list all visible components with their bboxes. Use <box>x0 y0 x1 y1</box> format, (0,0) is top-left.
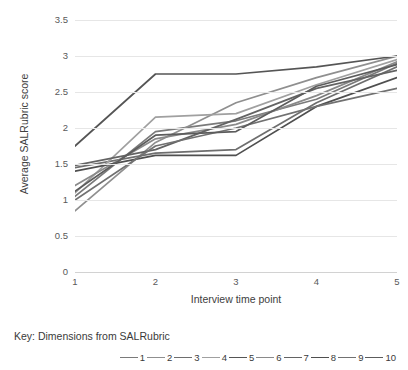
x-axis-tick-label: 3 <box>233 276 238 287</box>
legend-label-6: 6 <box>276 352 281 363</box>
legend-items: 12345678910 <box>14 347 398 367</box>
legend-swatch-8 <box>311 357 329 358</box>
legend-title: Key: Dimensions from SALRubric <box>14 330 170 342</box>
gridline <box>75 92 397 93</box>
series-line-1 <box>75 63 397 196</box>
legend-item-6[interactable]: 6 <box>256 352 281 363</box>
legend-swatch-1 <box>120 357 138 358</box>
y-axis-tick-label: 1.5 <box>8 158 68 169</box>
legend-swatch-4 <box>202 357 220 358</box>
legend-label-5: 5 <box>249 352 254 363</box>
legend-item-5[interactable]: 5 <box>229 352 254 363</box>
y-axis-tick-label: 3 <box>8 50 68 61</box>
legend-swatch-10 <box>365 357 383 358</box>
legend-item-7[interactable]: 7 <box>284 352 309 363</box>
y-axis-tick-labels: 00.511.522.533.5 <box>0 20 68 272</box>
legend-swatch-2 <box>147 357 165 358</box>
x-axis-tick-label: 2 <box>153 276 158 287</box>
gridline <box>75 56 397 57</box>
legend-label-8: 8 <box>331 352 336 363</box>
line-chart: 00.511.522.533.5 Average SALRubric score… <box>0 0 408 330</box>
legend-label-1: 1 <box>140 352 145 363</box>
legend-label-10: 10 <box>385 352 396 363</box>
x-axis-title: Interview time point <box>75 293 397 305</box>
chart-root: 00.511.522.533.5 Average SALRubric score… <box>0 0 408 370</box>
gridline <box>75 128 397 129</box>
legend-item-10[interactable]: 10 <box>365 352 396 363</box>
legend-item-3[interactable]: 3 <box>174 352 199 363</box>
x-axis-tick-label: 5 <box>394 276 399 287</box>
legend-label-3: 3 <box>194 352 199 363</box>
gridline <box>75 236 397 237</box>
legend-item-1[interactable]: 1 <box>120 352 145 363</box>
x-axis-tick-labels: 12345 <box>75 276 397 292</box>
y-axis-tick-label: 2.5 <box>8 86 68 97</box>
legend-label-2: 2 <box>167 352 172 363</box>
legend-swatch-3 <box>174 357 192 358</box>
legend-swatch-6 <box>256 357 274 358</box>
legend-swatch-9 <box>338 357 356 358</box>
series-line-2 <box>75 56 397 211</box>
gridline <box>75 272 397 273</box>
legend-label-9: 9 <box>358 352 363 363</box>
legend-item-9[interactable]: 9 <box>338 352 363 363</box>
legend-label-4: 4 <box>222 352 227 363</box>
plot-area <box>75 20 397 272</box>
y-axis-tick-label: 1 <box>8 194 68 205</box>
y-axis-tick-label: 0 <box>8 266 68 277</box>
series-lines <box>75 20 397 272</box>
gridline <box>75 164 397 165</box>
y-axis-tick-label: 2 <box>8 122 68 133</box>
x-axis-tick-label: 1 <box>72 276 77 287</box>
y-axis-title-wrapper: Average SALRubric score <box>0 0 1 1</box>
gridline <box>75 200 397 201</box>
y-axis-tick-label: 3.5 <box>8 14 68 25</box>
y-axis-tick-label: 0.5 <box>8 230 68 241</box>
legend-item-4[interactable]: 4 <box>202 352 227 363</box>
legend: Key: Dimensions from SALRubric 123456789… <box>0 330 408 370</box>
legend-item-8[interactable]: 8 <box>311 352 336 363</box>
series-line-4 <box>75 60 397 193</box>
series-line-9 <box>75 88 397 200</box>
legend-label-7: 7 <box>304 352 309 363</box>
legend-swatch-5 <box>229 357 247 358</box>
x-axis-tick-label: 4 <box>314 276 319 287</box>
legend-item-2[interactable]: 2 <box>147 352 172 363</box>
legend-swatch-7 <box>284 357 302 358</box>
gridline <box>75 20 397 21</box>
y-axis-title: Average SALRubric score <box>18 14 30 254</box>
